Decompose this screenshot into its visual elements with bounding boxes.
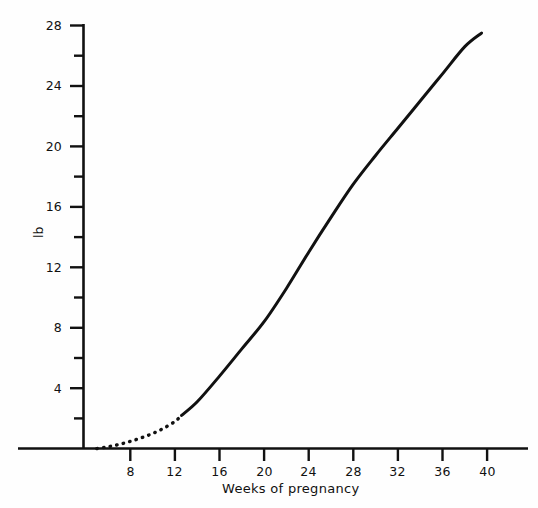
- y-tick-label-12: 12: [36, 260, 62, 275]
- x-tick-label-40: 40: [469, 464, 506, 479]
- x-axis-title: Weeks of pregnancy: [222, 481, 359, 496]
- series-line-extrapolated: [97, 415, 182, 448]
- y-tick-label-16: 16: [36, 199, 62, 214]
- x-tick-label-8: 8: [112, 464, 149, 479]
- x-tick-label-36: 36: [424, 464, 461, 479]
- y-tick-label-20: 20: [36, 139, 62, 154]
- y-minor-ticks: [74, 56, 83, 419]
- y-tick-label-4: 4: [36, 381, 62, 396]
- chart-plot-area: [0, 0, 538, 508]
- chart-figure: 28 24 20 16 12 8 4 8 12 16 20 24 28 32 3…: [0, 0, 538, 508]
- y-tick-label-28: 28: [36, 18, 62, 33]
- y-tick-label-24: 24: [36, 78, 62, 93]
- y-axis-title: lb: [31, 227, 46, 238]
- x-tick-label-16: 16: [201, 464, 238, 479]
- x-tick-label-24: 24: [290, 464, 327, 479]
- x-tick-label-28: 28: [335, 464, 372, 479]
- x-major-ticks: [130, 448, 487, 461]
- x-tick-label-20: 20: [246, 464, 283, 479]
- x-tick-label-32: 32: [379, 464, 416, 479]
- series-line-observed: [182, 33, 482, 415]
- y-major-ticks: [70, 26, 83, 389]
- y-tick-label-8: 8: [36, 320, 62, 335]
- x-tick-label-12: 12: [156, 464, 193, 479]
